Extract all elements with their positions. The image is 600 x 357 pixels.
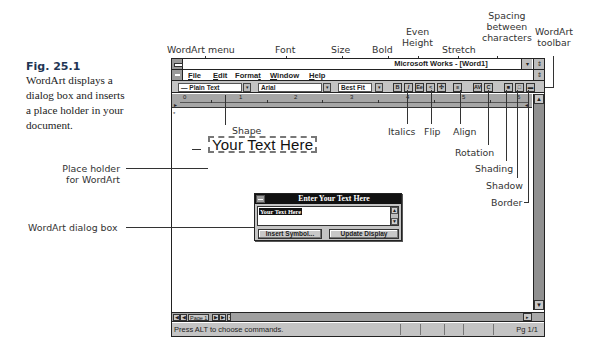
font-select[interactable]: Arial [258, 83, 322, 92]
callout-wordart-menu: WordArt menu [167, 44, 235, 55]
dialog-title: Enter Your Text Here [267, 194, 401, 204]
callout-shading: Shading [475, 163, 513, 174]
ruler-number: 2 [294, 94, 297, 101]
ruler-baseline [180, 102, 528, 103]
ruler-number: 5 [462, 94, 465, 101]
leader-line [517, 90, 518, 178]
spacing-button[interactable]: AV [473, 83, 482, 92]
ruler-tick [378, 100, 379, 103]
status-divider [463, 324, 464, 335]
leader-line [460, 90, 461, 124]
window-title: Microsoft Works - [Word1] [172, 59, 520, 69]
figure-number: Fig. 25.1 [26, 60, 126, 73]
callout-spacing: Spacing between characters [482, 10, 532, 43]
wordart-dialog: Enter Your Text Here Your Text Here ▲ ▼ … [254, 193, 402, 241]
callout-font: Font [275, 44, 295, 55]
document-restore-button[interactable]: ⇕ [533, 70, 544, 80]
callout-border: Border [491, 197, 522, 208]
even-height-button[interactable]: Ee [415, 83, 424, 92]
last-page-button[interactable]: ▶ [219, 314, 226, 321]
leader-line [524, 202, 529, 203]
figure-description: WordArt displays a dialog box and insert… [26, 73, 126, 133]
wordart-text-input[interactable]: Your Text Here ▲ ▼ [257, 206, 399, 226]
status-divider [420, 324, 421, 335]
leader-line [225, 95, 226, 125]
ruler-number: 0 [183, 94, 186, 101]
document-menu-button[interactable] [172, 70, 183, 80]
menu-help[interactable]: Help [309, 70, 325, 81]
insertion-marker: * [173, 111, 175, 117]
callout-placeholder: Place holder for WordArt [60, 163, 120, 185]
menu-edit[interactable]: Edit [213, 70, 227, 81]
leader-line [488, 90, 489, 145]
status-divider [493, 324, 494, 335]
scroll-right-button[interactable]: ▸ [523, 313, 532, 321]
leader-line [431, 90, 432, 124]
shape-select[interactable]: — Plain Text [178, 83, 242, 92]
status-bar: Press ALT to choose commands. Pg 1/1 [172, 323, 544, 336]
scroll-down-button[interactable]: ▼ [534, 300, 544, 310]
restore-button[interactable]: ⇕ [533, 59, 544, 69]
ruler-tick [434, 100, 435, 103]
minimize-button[interactable]: ▾ [521, 59, 532, 69]
italic-button[interactable]: I [404, 83, 413, 92]
callout-even-height: Even Height [402, 26, 433, 48]
callout-rotation: Rotation [455, 147, 494, 158]
dialog-system-menu-button[interactable] [256, 195, 265, 203]
previous-page-button[interactable]: ◀ [180, 314, 187, 321]
selected-text: Your Text Here [259, 208, 302, 215]
ruler-tick [322, 100, 323, 103]
callout-size: Size [331, 44, 350, 55]
font-dropdown-arrow[interactable]: ▾ [323, 83, 331, 92]
leader-line [553, 56, 554, 88]
shape-dropdown-arrow[interactable]: ▾ [243, 83, 251, 92]
leader-line [545, 87, 554, 88]
bold-button[interactable]: B [393, 83, 402, 92]
menu-format[interactable]: Format [235, 70, 261, 81]
dialog-text-scrollbar[interactable]: ▲ ▼ [390, 207, 398, 225]
horizontal-scroll-track[interactable] [230, 313, 530, 321]
next-page-button[interactable]: ▶ [212, 314, 219, 321]
figure-caption: Fig. 25.1 WordArt displays a dialog box … [26, 60, 126, 133]
callout-flip: Flip [424, 126, 441, 137]
stretch-button[interactable]: ✣ [437, 83, 446, 92]
menu-bar: File Edit Format Window Help ⇕ [172, 70, 544, 81]
title-bar: Microsoft Works - [Word1] ▾ ⇕ [172, 59, 544, 70]
size-select[interactable]: Best Fit [338, 83, 372, 92]
dialog-title-bar[interactable]: Enter Your Text Here [255, 194, 401, 204]
callout-dialog-box: WordArt dialog box [28, 222, 118, 233]
ruler-tick [490, 100, 491, 103]
callout-align: Align [453, 126, 477, 137]
ruler[interactable]: 0 1 2 3 4 5 6 ▸ ◂ [172, 94, 532, 108]
callout-wordart-toolbar: WordArt toolbar [535, 26, 573, 48]
first-page-button[interactable]: ◀ [173, 314, 180, 321]
status-divider [444, 324, 445, 335]
vertical-scrollbar[interactable]: ▲ ▼ [533, 94, 544, 310]
left-indent-marker[interactable]: ▸ [174, 102, 177, 108]
status-message: Press ALT to choose commands. [174, 324, 283, 335]
dialog-scroll-up-button[interactable]: ▲ [391, 207, 398, 214]
wordart-placeholder[interactable]: Your Text Here [208, 136, 317, 153]
ruler-tick [267, 100, 268, 103]
scroll-up-button[interactable]: ▲ [534, 94, 544, 104]
ruler-number: 3 [350, 94, 353, 101]
menu-window[interactable]: Window [270, 70, 299, 81]
dialog-scroll-down-button[interactable]: ▼ [391, 218, 398, 225]
status-divider [400, 324, 401, 335]
page-indicator: Page 1 [188, 314, 209, 321]
ruler-number: 1 [239, 94, 242, 101]
callout-shadow: Shadow [486, 180, 523, 191]
horizontal-scrollbar[interactable]: ◀ ◀ Page 1 ▶ ▶ ◂ ▸ [172, 312, 544, 322]
update-display-button[interactable]: Update Display [329, 229, 399, 239]
callout-stretch: Stretch [442, 44, 476, 55]
leader-line [126, 227, 254, 228]
callout-shape: Shape [232, 125, 261, 136]
ruler-tick [211, 100, 212, 103]
menu-file[interactable]: File [188, 70, 201, 81]
insert-symbol-button[interactable]: Insert Symbol... [258, 229, 322, 239]
callout-bold: Bold [372, 44, 393, 55]
leader-line [506, 90, 507, 161]
leader-line [407, 90, 408, 124]
size-dropdown-arrow[interactable]: ▾ [375, 83, 383, 92]
callout-italics: Italics [388, 126, 415, 137]
